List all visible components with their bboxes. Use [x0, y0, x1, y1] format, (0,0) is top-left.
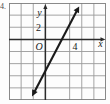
- x-axis-label: x: [97, 38, 103, 49]
- x-tick-label-4: 4: [73, 41, 78, 52]
- coordinate-graph: y x O 2 4: [9, 3, 106, 100]
- y-tick-label-2: 2: [36, 22, 41, 33]
- y-axis-label: y: [36, 7, 42, 18]
- item-number-label: 4.: [0, 1, 9, 13]
- origin-label: O: [35, 41, 42, 52]
- math-figure: 4.: [0, 0, 110, 104]
